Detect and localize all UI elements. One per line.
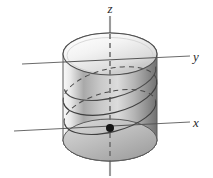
figure-canvas: z y x	[0, 0, 213, 178]
origin-dot	[106, 124, 114, 132]
x-axis-label: x	[192, 115, 199, 130]
cylinder-solid	[14, 33, 190, 161]
z-axis-label: z	[106, 1, 112, 16]
y-axis-label: y	[191, 49, 199, 64]
three-d-cylinder-figure: z y x	[0, 0, 213, 178]
